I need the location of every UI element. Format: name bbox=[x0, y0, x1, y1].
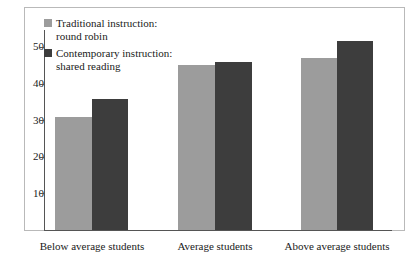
category-label-below-average: Below average students bbox=[27, 240, 157, 253]
legend-entry-contemporary: Contemporary instruction: shared reading bbox=[44, 47, 172, 72]
legend-label-contemporary-line2: shared reading bbox=[56, 60, 172, 73]
legend-label-traditional-line2: round robin bbox=[56, 30, 172, 43]
category-label-above-average: Above average students bbox=[272, 240, 402, 253]
legend-label-traditional-line1: Traditional instruction: bbox=[56, 17, 172, 30]
chart-legend: Traditional instruction: round robin Con… bbox=[44, 17, 172, 77]
legend-entry-traditional: Traditional instruction: round robin bbox=[44, 17, 172, 42]
bar-chart-figure: 50 40 30 20 10 Traditiona bbox=[0, 0, 414, 265]
category-label-average: Average students bbox=[165, 240, 265, 253]
light-gray-swatch-icon bbox=[44, 19, 52, 27]
dark-gray-swatch-icon bbox=[44, 49, 52, 57]
legend-label-contemporary-line1: Contemporary instruction: bbox=[56, 47, 172, 60]
